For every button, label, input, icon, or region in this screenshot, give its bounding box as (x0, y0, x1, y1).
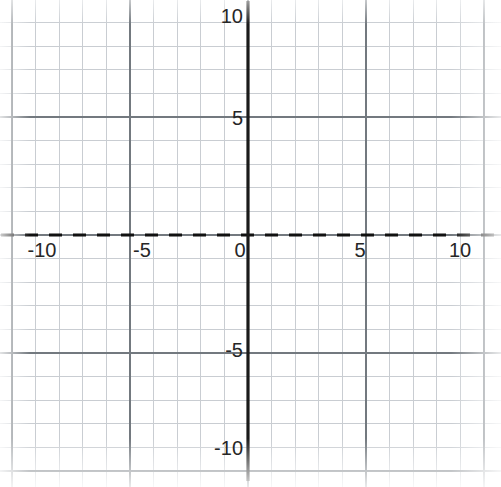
xtick-label-neg5: -5 (133, 240, 151, 260)
edge-fade-top (0, 0, 501, 487)
xtick-label-neg10: -10 (28, 240, 57, 260)
xtick-label-10: 10 (449, 240, 471, 260)
xtick-label-0: 0 (234, 240, 245, 260)
ytick-label-neg10: -10 (214, 438, 243, 458)
xtick-label-5: 5 (354, 240, 365, 260)
ytick-label-10: 10 (221, 6, 243, 26)
graph-screenshot: -10 -5 0 5 10 10 5 -5 -10 (0, 0, 501, 487)
graph-canvas (0, 0, 501, 487)
ytick-label-neg5: -5 (225, 340, 243, 360)
ytick-label-5: 5 (232, 108, 243, 128)
